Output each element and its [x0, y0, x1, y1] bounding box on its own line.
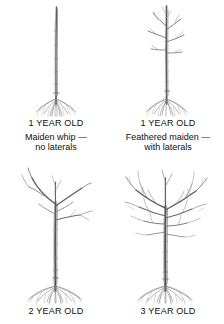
age-label: 1 YEAR OLD	[112, 119, 224, 129]
age-label: 1 YEAR OLD	[0, 119, 112, 129]
age-label: 3 YEAR OLD	[112, 307, 224, 317]
tree-1-year-maiden-whip-illustration	[0, 0, 112, 118]
description-text: Feathered maiden — with laterals	[112, 132, 224, 153]
caption-three-year-old: 3 YEAR OLD	[112, 307, 224, 317]
description-text: Maiden whip — no laterals	[0, 132, 112, 153]
tree-1-year-feathered-maiden-illustration	[112, 0, 224, 118]
caption-one-year-maiden-whip: 1 YEAR OLD Maiden whip — no laterals	[0, 119, 112, 152]
panel-one-year-feathered-maiden: 1 YEAR OLD Feathered maiden — with later…	[112, 0, 224, 152]
panel-three-year-old: 3 YEAR OLD	[112, 160, 224, 317]
description-line-2: no laterals	[0, 142, 112, 152]
panel-two-year-old: 2 YEAR OLD	[0, 160, 112, 317]
tree-2-year-old-illustration	[0, 160, 112, 305]
description-line-1: Maiden whip —	[0, 132, 112, 142]
panel-one-year-maiden-whip: 1 YEAR OLD Maiden whip — no laterals	[0, 0, 112, 152]
caption-two-year-old: 2 YEAR OLD	[0, 307, 112, 317]
tree-3-year-old-illustration	[112, 160, 224, 305]
caption-one-year-feathered-maiden: 1 YEAR OLD Feathered maiden — with later…	[112, 119, 224, 152]
description-line-1: Feathered maiden —	[112, 132, 224, 142]
age-label: 2 YEAR OLD	[0, 307, 112, 317]
description-line-2: with laterals	[112, 142, 224, 152]
tree-growth-stages-figure: 1 YEAR OLD Maiden whip — no laterals	[0, 0, 224, 324]
